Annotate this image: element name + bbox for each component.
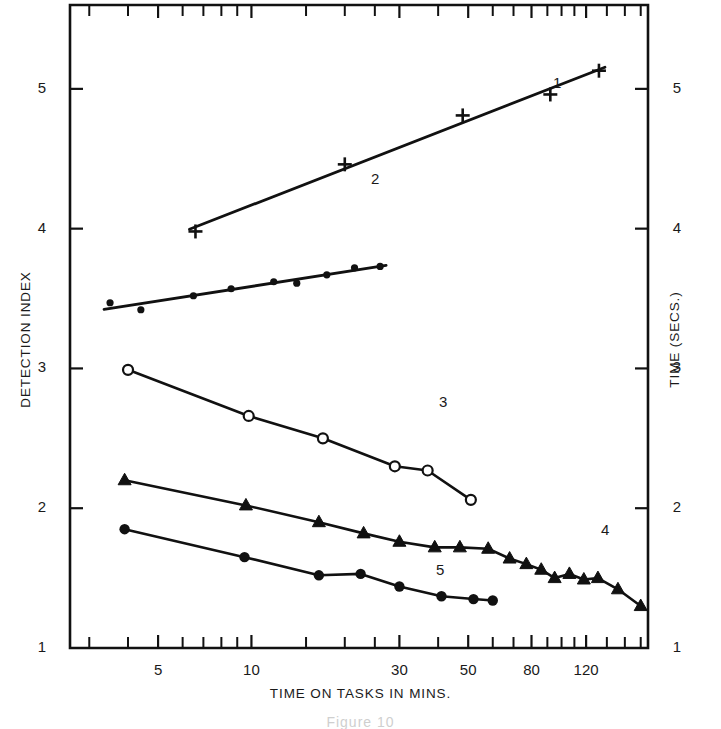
series-label-2: 2 — [371, 170, 379, 187]
y-axis-left-title: DETECTION INDEX — [18, 271, 33, 408]
figure-panel: 12345 12345 510305080120 12345 DETECTION… — [0, 0, 721, 729]
series-label-5: 5 — [436, 561, 444, 578]
series-4 — [118, 473, 647, 610]
figure-caption: Figure 10 — [0, 714, 721, 729]
y-right-tick-4: 4 — [665, 219, 689, 236]
series-label-3: 3 — [439, 393, 447, 410]
y-left-tick-1: 1 — [30, 638, 54, 655]
data-series-group — [104, 64, 647, 611]
x-tick-80: 80 — [511, 661, 551, 678]
y-left-tick-4: 4 — [30, 219, 54, 236]
series-label-1: 1 — [553, 74, 561, 91]
x-axis-title: TIME ON TASKS IN MINS. — [0, 686, 721, 701]
y-right-tick-2: 2 — [665, 498, 689, 515]
axis-ticks — [70, 5, 648, 648]
series-label-4: 4 — [601, 521, 609, 538]
x-tick-30: 30 — [379, 661, 419, 678]
y-left-tick-3: 3 — [30, 358, 54, 375]
chart-plot-area — [0, 0, 721, 729]
y-right-tick-1: 1 — [665, 638, 689, 655]
y-left-tick-2: 2 — [30, 498, 54, 515]
x-tick-120: 120 — [566, 661, 606, 678]
x-tick-50: 50 — [448, 661, 488, 678]
y-right-tick-5: 5 — [665, 79, 689, 96]
series-1 — [188, 64, 605, 239]
axis-frame — [70, 5, 648, 648]
series-2 — [104, 263, 386, 314]
y-axis-right-title: TIME (SECS.) — [667, 291, 682, 387]
series-3 — [123, 365, 476, 505]
x-tick-10: 10 — [231, 661, 271, 678]
y-left-tick-5: 5 — [30, 79, 54, 96]
x-tick-5: 5 — [138, 661, 178, 678]
